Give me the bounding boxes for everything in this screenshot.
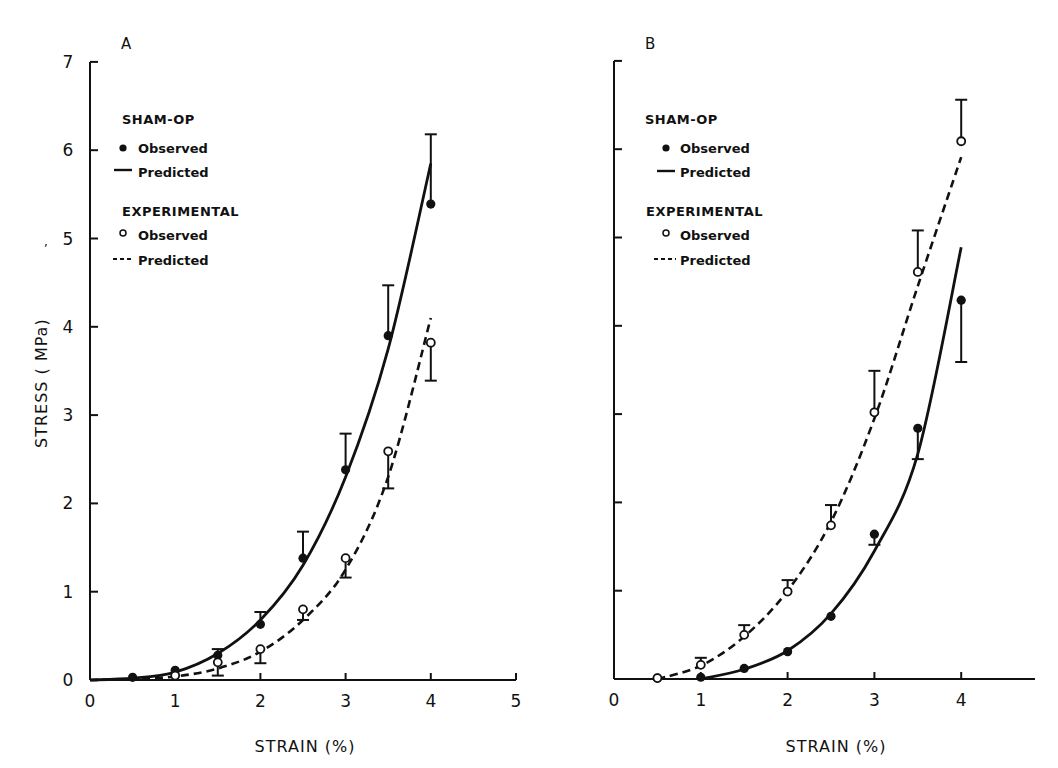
panel-b: B 01234 STRAIN (%) SHAM-OP Observed Pred… xyxy=(609,35,1035,756)
scan-mark: , xyxy=(44,235,48,249)
experimental-observed-point xyxy=(827,521,835,529)
sham-observed-point xyxy=(870,530,879,539)
experimental-observed-point xyxy=(299,605,307,613)
experimental-observed-point xyxy=(214,658,222,666)
figure-canvas: STRESS ( MPa) A 01234567012345 STRAIN (%… xyxy=(0,0,1058,768)
experimental-observed-point xyxy=(870,408,878,416)
experimental-observed-point xyxy=(697,661,705,669)
legend-a-exp-predicted: Predicted xyxy=(138,253,209,268)
panel-a-legend: SHAM-OP Observed Predicted EXPERIMENTAL … xyxy=(113,112,239,268)
legend-b-sham-title: SHAM-OP xyxy=(645,112,718,127)
x-tick-label: 0 xyxy=(609,690,620,710)
legend-b-filled-circle-icon xyxy=(662,144,669,151)
y-tick-label: 6 xyxy=(63,140,74,160)
sham-observed-point xyxy=(957,296,966,305)
sham-observed-point xyxy=(298,554,307,563)
legend-a-sham-title: SHAM-OP xyxy=(122,112,195,127)
legend-b-exp-observed: Observed xyxy=(680,228,750,243)
x-tick-label: 4 xyxy=(956,690,967,710)
panel-b-legend: SHAM-OP Observed Predicted EXPERIMENTAL … xyxy=(645,112,763,268)
y-tick-label: 5 xyxy=(63,229,74,249)
sham-observed-point xyxy=(783,647,792,656)
experimental-observed-point xyxy=(342,554,350,562)
x-tick-label: 0 xyxy=(85,691,96,711)
experimental-observed-point xyxy=(957,137,965,145)
y-tick-label: 3 xyxy=(63,405,74,425)
experimental-observed-point xyxy=(784,588,792,596)
legend-a-exp-title: EXPERIMENTAL xyxy=(122,204,239,219)
panel-b-axes: 01234 xyxy=(609,61,1035,710)
x-tick-label: 2 xyxy=(782,690,793,710)
legend-b-exp-predicted: Predicted xyxy=(680,253,751,268)
x-tick-label: 3 xyxy=(869,690,880,710)
experimental-observed-point xyxy=(427,339,435,347)
x-tick-label: 2 xyxy=(255,691,266,711)
panel-b-x-axis-title: STRAIN (%) xyxy=(786,737,887,756)
y-tick-label: 1 xyxy=(63,582,74,602)
experimental-observed-point xyxy=(740,631,748,639)
sham-observed-point xyxy=(341,465,350,474)
legend-a-sham-predicted: Predicted xyxy=(138,165,209,180)
x-tick-label: 5 xyxy=(511,691,522,711)
experimental-observed-point xyxy=(256,645,264,653)
sham-observed-point xyxy=(384,331,393,340)
y-tick-label: 2 xyxy=(63,493,74,513)
sham-observed-point xyxy=(740,664,749,673)
stress-strain-figure: STRESS ( MPa) A 01234567012345 STRAIN (%… xyxy=(0,0,1058,768)
sham-observed-point xyxy=(826,612,835,621)
legend-a-exp-observed: Observed xyxy=(138,228,208,243)
panel-a-x-axis-title: STRAIN (%) xyxy=(255,737,356,756)
panel-a: A 01234567012345 STRAIN (%) SHAM-OP Obse… xyxy=(63,35,522,756)
x-tick-label: 1 xyxy=(170,691,181,711)
experimental-observed-point xyxy=(171,672,179,680)
experimental-observed-point xyxy=(653,674,661,682)
panel-a-axes: 01234567012345 xyxy=(63,52,522,711)
x-tick-label: 4 xyxy=(425,691,436,711)
sham-observed-point xyxy=(913,424,922,433)
x-tick-label: 3 xyxy=(340,691,351,711)
experimental-observed-point xyxy=(384,447,392,455)
legend-b-sham-predicted: Predicted xyxy=(680,165,751,180)
legend-b-exp-title: EXPERIMENTAL xyxy=(646,204,763,219)
legend-a-sham-observed: Observed xyxy=(138,141,208,156)
x-tick-label: 1 xyxy=(695,690,706,710)
panel-b-points xyxy=(653,100,967,683)
sham-observed-point xyxy=(128,673,137,682)
panel-b-letter: B xyxy=(645,35,655,53)
legend-b-sham-observed: Observed xyxy=(680,141,750,156)
legend-b-open-circle-icon xyxy=(663,230,669,236)
panel-a-letter: A xyxy=(121,35,132,53)
y-tick-label: 4 xyxy=(63,317,74,337)
sham-observed-point xyxy=(256,620,265,629)
experimental-observed-point xyxy=(914,268,922,276)
y-tick-label: 0 xyxy=(63,670,74,690)
sham-observed-point xyxy=(696,673,705,682)
legend-a-filled-circle-icon xyxy=(119,144,126,151)
y-axis-title: STRESS ( MPa) xyxy=(32,318,51,448)
legend-a-open-circle-icon xyxy=(120,230,126,236)
sham-observed-point xyxy=(426,199,435,208)
y-tick-label: 7 xyxy=(63,52,74,72)
